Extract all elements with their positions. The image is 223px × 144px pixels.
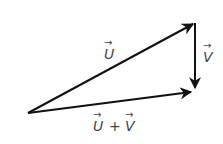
sum-plus-sign: + xyxy=(109,118,121,134)
vector-sum-arrow xyxy=(28,92,191,113)
vector-u-label: U xyxy=(104,46,114,62)
sum-v-label: V xyxy=(125,118,136,134)
vector-diagram: → U → V → U + → V xyxy=(0,0,223,144)
sum-u-label: U xyxy=(93,118,103,134)
vector-v-label: V xyxy=(203,49,214,65)
